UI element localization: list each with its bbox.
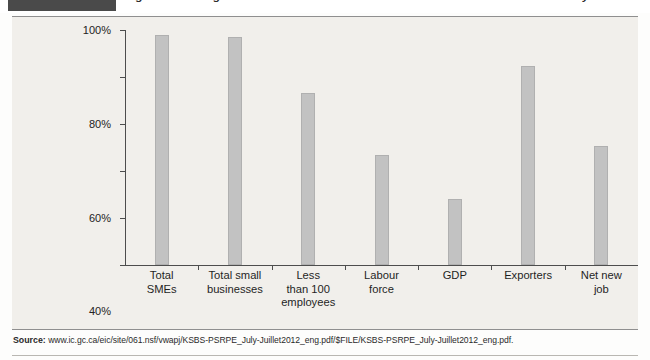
chart-panel: 0%20%40%60%80%100% TotalSMEsTotal smallb… <box>12 17 638 329</box>
y-tick-label: 60% <box>89 212 111 223</box>
figure-panel: gure 1: The Signi cant Contributions of … <box>0 0 650 360</box>
divider-bottom <box>12 329 638 330</box>
x-axis-label-line: force <box>345 283 418 297</box>
x-axis-label: Exporters <box>491 269 564 283</box>
x-axis-label-line: Less <box>272 269 345 283</box>
x-axis-label: Labourforce <box>345 269 418 296</box>
source-url: www.ic.gc.ca/eic/site/061.nsf/vwapj/KSBS… <box>48 335 513 345</box>
source-label: Source: <box>13 335 46 345</box>
x-axis-label-line: Net new <box>565 269 638 283</box>
x-axis-label-line: Total small <box>198 269 271 283</box>
y-tick-label: 40% <box>89 306 111 317</box>
x-axis-label: GDP <box>418 269 491 283</box>
bar <box>155 35 169 265</box>
bar <box>301 93 315 264</box>
x-axis-label-line: job <box>565 283 638 297</box>
bar <box>375 155 389 264</box>
figure-title: gure 1: The Signi cant Contributions of … <box>136 0 641 2</box>
x-axis-label-line: businesses <box>198 283 271 297</box>
figure-header: gure 1: The Signi cant Contributions of … <box>0 0 650 13</box>
plot-area: 0%20%40%60%80%100% <box>125 30 638 282</box>
y-tick-label: 100% <box>83 25 111 36</box>
x-axis-label-line: GDP <box>418 269 491 283</box>
x-axis-label-line: than 100 <box>272 283 345 297</box>
bar-series <box>125 30 638 265</box>
x-axis-label-line: Exporters <box>491 269 564 283</box>
x-axis-label: Net newjob <box>565 269 638 296</box>
x-axis-labels: TotalSMEsTotal smallbusinessesLessthan 1… <box>125 269 638 325</box>
x-axis-label-line: SMEs <box>125 283 198 297</box>
x-axis-label: Total smallbusinesses <box>198 269 271 296</box>
x-axis-label-line: Labour <box>345 269 418 283</box>
x-axis-label-line: employees <box>272 296 345 310</box>
x-axis-label: Lessthan 100employees <box>272 269 345 310</box>
bar <box>594 146 608 264</box>
x-axis-label: TotalSMEs <box>125 269 198 296</box>
figure-number-tag <box>8 0 116 11</box>
y-tick: 0% <box>120 265 126 266</box>
y-tick-label: 80% <box>89 118 111 129</box>
x-axis-label-line: Total <box>125 269 198 283</box>
source-line: Source: www.ic.gc.ca/eic/site/061.nsf/vw… <box>13 335 643 346</box>
divider-footer <box>12 355 638 356</box>
bar <box>448 199 462 265</box>
bar <box>228 37 242 264</box>
x-axis <box>125 265 638 266</box>
bar <box>521 66 535 264</box>
